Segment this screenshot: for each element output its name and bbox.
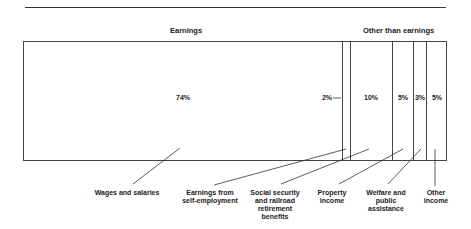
category-label-other: Other income bbox=[424, 189, 449, 205]
category-label-welfare: Welfare and public assistance bbox=[366, 189, 406, 213]
category-label-property: Property income bbox=[318, 189, 347, 205]
category-label-wages: Wages and salaries bbox=[95, 189, 160, 197]
category-label-self-employment: Earnings from self-employment bbox=[182, 189, 238, 205]
category-label-social-security: Social security and railroad retirement … bbox=[250, 189, 299, 221]
